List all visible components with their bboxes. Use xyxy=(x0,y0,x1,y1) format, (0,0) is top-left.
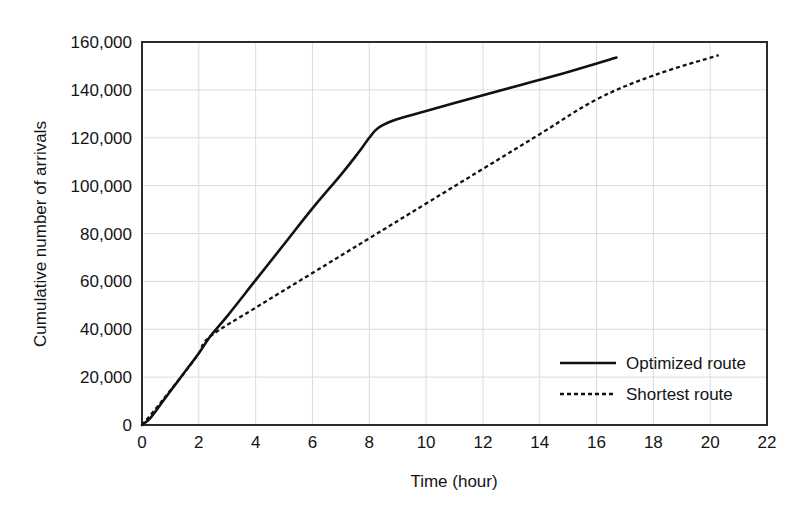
x-tick-label: 10 xyxy=(417,433,436,452)
x-tick-label: 16 xyxy=(587,433,606,452)
legend-label-shortest-route: Shortest route xyxy=(626,385,733,404)
x-tick-label: 2 xyxy=(194,433,203,452)
x-tick-label: 8 xyxy=(365,433,374,452)
x-tick-label: 20 xyxy=(701,433,720,452)
y-tick-label: 20,000 xyxy=(80,368,132,387)
x-tick-label: 12 xyxy=(473,433,492,452)
y-tick-label: 0 xyxy=(123,416,132,435)
x-tick-label: 14 xyxy=(530,433,549,452)
x-tick-label: 0 xyxy=(137,433,146,452)
y-tick-label: 60,000 xyxy=(80,272,132,291)
legend-label-optimized-route: Optimized route xyxy=(626,354,746,373)
y-tick-label: 120,000 xyxy=(71,129,132,148)
x-tick-label: 6 xyxy=(308,433,317,452)
y-tick-label: 40,000 xyxy=(80,320,132,339)
x-axis-title: Time (hour) xyxy=(410,472,497,491)
y-tick-label: 140,000 xyxy=(71,81,132,100)
y-tick-label: 160,000 xyxy=(71,33,132,52)
y-tick-label: 100,000 xyxy=(71,177,132,196)
x-tick-label: 4 xyxy=(251,433,260,452)
line-chart-svg: 0246810121416182022 020,00040,00060,0008… xyxy=(0,0,811,505)
y-axis-title: Cumulative number of arrivals xyxy=(31,121,50,347)
y-tick-label: 80,000 xyxy=(80,225,132,244)
x-tick-label: 18 xyxy=(644,433,663,452)
y-axis-tick-labels: 020,00040,00060,00080,000100,000120,0001… xyxy=(71,33,132,435)
x-tick-label: 22 xyxy=(758,433,777,452)
chart-figure: 0246810121416182022 020,00040,00060,0008… xyxy=(0,0,811,505)
